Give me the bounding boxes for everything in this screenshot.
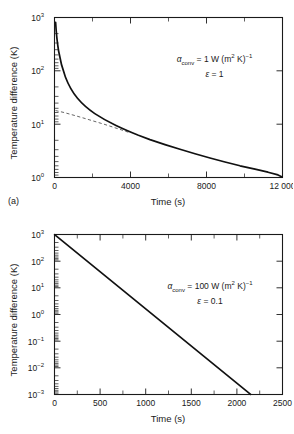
panel-b-solid-curve xyxy=(55,235,251,395)
svg-text:103: 103 xyxy=(31,229,44,240)
panel-b-y-major-ticks xyxy=(55,235,283,395)
panel-b-x-major-ticks xyxy=(55,235,283,395)
svg-text:103: 103 xyxy=(31,12,44,23)
panel-a-y-major-ticks xyxy=(55,18,283,178)
chart-panel-a: Temperature difference (K) xyxy=(0,0,293,216)
panel-b-ytick-4-exp: 1 xyxy=(41,282,45,288)
panel-a-ytick-3-exp: 3 xyxy=(41,12,45,18)
panel-b-annotation-epsilon: ε = 0.1 xyxy=(140,296,280,307)
panel-b-xtick-1: 500 xyxy=(93,398,107,408)
svg-text:100: 100 xyxy=(31,309,44,320)
panel-a-plot-frame xyxy=(55,18,283,178)
panel-a-ytick-1-exp: 1 xyxy=(41,119,45,125)
panel-a-xtick-2: 8000 xyxy=(197,181,216,191)
panel-b-x-minor-ticks xyxy=(77,235,259,395)
panel-b-y-tick-labels: 103 102 101 100 10−1 10−2 10−3 xyxy=(28,229,45,400)
figure-container: Temperature difference (K) xyxy=(0,0,293,434)
panel-b-epsilon-value: = 0.1 xyxy=(203,296,222,306)
chart-panel-b: Temperature difference (K) xyxy=(0,216,293,434)
panel-b-ytick-1-exp: −2 xyxy=(37,362,45,368)
panel-b-xtick-3: 1500 xyxy=(182,398,201,408)
panel-a-epsilon-symbol: ε xyxy=(205,69,209,79)
panel-a-y-axis-title: Temperature difference (K) xyxy=(8,47,19,160)
panel-b-ytick-4-mantissa: 10 xyxy=(31,283,41,293)
panel-a-x-tick-labels: 0 4000 8000 12 000 xyxy=(52,181,293,191)
panel-a-x-major-ticks xyxy=(55,18,283,178)
panel-b-ytick-2-mantissa: 10 xyxy=(28,337,38,347)
panel-a-ytick-0-mantissa: 10 xyxy=(31,173,41,183)
panel-a-ytick-2-mantissa: 10 xyxy=(31,66,41,76)
panel-b-ytick-0-mantissa: 10 xyxy=(28,390,38,400)
panel-b-ytick-3-exp: 0 xyxy=(41,309,45,315)
panel-a-x-minor-ticks xyxy=(93,18,245,178)
panel-b-y-axis-title: Temperature difference (K) xyxy=(8,264,19,377)
panel-b-epsilon-symbol: ε xyxy=(197,296,201,306)
panel-a-dashed-curve xyxy=(56,111,131,134)
panel-b-ytick-6-mantissa: 10 xyxy=(31,230,41,240)
svg-text:10−3: 10−3 xyxy=(28,389,45,400)
panel-b-xtick-5: 2500 xyxy=(273,398,292,408)
panel-a-xtick-1: 4000 xyxy=(121,181,140,191)
svg-text:10−2: 10−2 xyxy=(28,362,45,373)
panel-a-ytick-3-mantissa: 10 xyxy=(31,13,41,23)
panel-a-annotation: αconv = 1 W (m2 K)−1 ε = 1 xyxy=(152,51,277,80)
panel-a-solid-curve xyxy=(56,22,283,177)
panel-b-ytick-2-exp: −1 xyxy=(37,336,45,342)
panel-b-ytick-5-mantissa: 10 xyxy=(31,257,41,267)
panel-b-xtick-0: 0 xyxy=(52,398,57,408)
panel-a-ytick-2-exp: 2 xyxy=(41,65,45,71)
panel-b-alpha-equals: = 100 W (m xyxy=(187,281,231,291)
svg-text:100: 100 xyxy=(31,172,44,183)
panel-a-xtick-3: 12 000 xyxy=(270,181,294,191)
panel-a-annotation-alpha: αconv = 1 W (m2 K)−1 xyxy=(152,51,277,69)
panel-a-annotation-epsilon: ε = 1 xyxy=(152,69,277,80)
panel-b-svg: Temperature difference (K) xyxy=(0,216,293,434)
panel-a-alpha-equals: = 1 W (m xyxy=(197,54,232,64)
panel-a-alpha-unit-tail: K) xyxy=(235,54,246,64)
panel-a-ytick-1-mantissa: 10 xyxy=(31,120,41,130)
panel-a-ytick-0-exp: 0 xyxy=(41,172,45,178)
panel-a-label: (a) xyxy=(8,196,19,206)
panel-b-alpha-sup-minus1: −1 xyxy=(246,280,253,286)
svg-text:102: 102 xyxy=(31,256,44,267)
panel-b-ytick-6-exp: 3 xyxy=(41,229,45,235)
panel-a-alpha-subscript: conv xyxy=(182,60,195,66)
panel-a-svg: Temperature difference (K) xyxy=(0,0,293,216)
panel-b-ytick-5-exp: 2 xyxy=(41,256,45,262)
panel-a-alpha-sup-minus1: −1 xyxy=(246,53,253,59)
panel-a-epsilon-value: = 1 xyxy=(212,69,224,79)
panel-b-annotation-alpha: αconv = 100 W (m2 K)−1 xyxy=(140,278,280,296)
panel-b-xtick-4: 2000 xyxy=(227,398,246,408)
panel-a-x-axis-title: Time (s) xyxy=(151,196,185,207)
svg-text:101: 101 xyxy=(31,282,44,293)
panel-a-y-tick-labels: 103 102 101 100 xyxy=(31,12,44,183)
panel-b-alpha-unit-tail: K) xyxy=(235,281,246,291)
panel-b-ytick-1-mantissa: 10 xyxy=(28,363,38,373)
svg-text:10−1: 10−1 xyxy=(28,336,45,347)
panel-b-xtick-2: 1000 xyxy=(136,398,155,408)
panel-b-x-tick-labels: 0 500 1000 1500 2000 2500 xyxy=(52,398,292,408)
panel-a-y-minor-ticks xyxy=(55,34,59,176)
panel-a-xtick-0: 0 xyxy=(52,181,57,191)
svg-text:102: 102 xyxy=(31,65,44,76)
panel-b-alpha-subscript: conv xyxy=(172,287,185,293)
panel-b-annotation: αconv = 100 W (m2 K)−1 ε = 0.1 xyxy=(140,278,280,307)
panel-b-plot-frame xyxy=(55,235,283,395)
panel-b-y-minor-ticks xyxy=(55,243,59,394)
panel-b-ytick-3-mantissa: 10 xyxy=(31,310,41,320)
panel-b-x-axis-title: Time (s) xyxy=(151,413,185,424)
svg-text:101: 101 xyxy=(31,119,44,130)
panel-b-ytick-0-exp: −3 xyxy=(37,389,45,395)
